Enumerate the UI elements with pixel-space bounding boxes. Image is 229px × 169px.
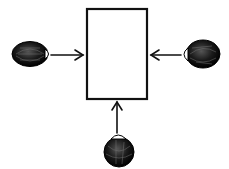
- bottom-eye-icon: [104, 135, 134, 167]
- observation-diagram: [0, 0, 229, 169]
- arrow-bottom-to-box: [112, 102, 122, 133]
- arrow-right-to-box: [151, 50, 181, 60]
- observed-box: [87, 9, 147, 99]
- right-eye-icon: [184, 40, 220, 68]
- arrow-left-to-box: [51, 50, 83, 60]
- left-eye-icon: [12, 42, 49, 67]
